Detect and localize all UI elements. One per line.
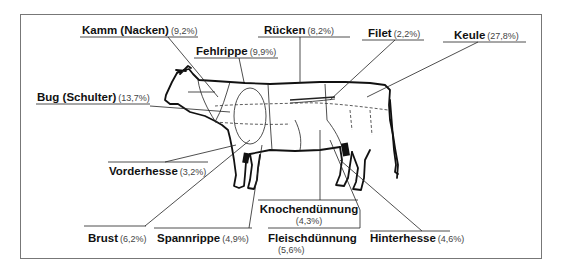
label-percent: (8,2%) [308, 26, 335, 36]
label-name: Filet [368, 27, 392, 39]
label-name: Brust [88, 232, 118, 244]
label-bug: Bug (Schulter)(13,7%) [37, 91, 150, 105]
label-name: Fehlrippe [196, 45, 248, 57]
label-percent: (2,2%) [394, 29, 421, 39]
cut-lines [188, 80, 342, 150]
leader-lines [36, 37, 526, 231]
label-percent: (5,6%) [278, 245, 357, 255]
label-hinterhesse: Hinterhesse(4,6%) [370, 232, 464, 246]
label-spannrippe: Spannrippe(4,9%) [157, 232, 249, 246]
label-knochenduennung: Knochendünnung(4,3%) [258, 203, 360, 226]
dashed-cut-lines [215, 103, 388, 135]
label-percent: (9,2%) [171, 26, 198, 36]
label-name: Vorderhesse [109, 165, 178, 177]
label-percent: (13,7%) [118, 93, 150, 103]
label-name: Keule [454, 29, 485, 41]
label-percent: (9,9%) [250, 47, 277, 57]
label-name: Fleischdünnung [268, 232, 357, 244]
label-vorderhesse: Vorderhesse(3,2%) [109, 165, 206, 179]
label-name: Knochendünnung [260, 203, 358, 215]
label-name: Hinterhesse [370, 232, 436, 244]
label-percent: (6,2%) [120, 234, 147, 244]
label-name: Kamm (Nacken) [82, 24, 169, 36]
label-percent: (4,3%) [258, 216, 360, 226]
label-filet: Filet(2,2%) [368, 27, 420, 41]
label-keule: Keule(27,8%) [454, 29, 519, 43]
label-name: Rücken [264, 24, 306, 36]
label-percent: (4,9%) [222, 234, 249, 244]
label-fleischduennung: Fleischdünnung(5,6%) [268, 232, 357, 255]
label-name: Spannrippe [157, 232, 220, 244]
label-ruecken: Rücken(8,2%) [264, 24, 334, 38]
label-kamm: Kamm (Nacken)(9,2%) [82, 24, 197, 38]
label-fehlrippe: Fehlrippe(9,9%) [196, 45, 276, 59]
label-percent: (3,2%) [180, 167, 207, 177]
label-brust: Brust(6,2%) [88, 232, 147, 246]
label-percent: (4,6%) [438, 234, 465, 244]
label-percent: (27,8%) [487, 31, 519, 41]
label-name: Bug (Schulter) [37, 91, 116, 103]
